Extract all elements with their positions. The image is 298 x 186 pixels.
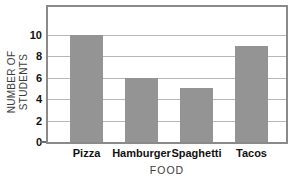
bar-pizza: [70, 35, 103, 142]
bar-hamburger: [125, 78, 158, 142]
y-tick-label: 8: [12, 49, 42, 63]
y-axis-tick-labels: 0246810: [12, 5, 42, 144]
x-axis-tick-labels: PizzaHamburgerSpaghettiTacos: [48, 147, 286, 161]
plot-area: [46, 5, 288, 144]
x-tick-label: Tacos: [207, 147, 297, 160]
y-tick-label: 4: [12, 92, 42, 106]
bar-tacos: [235, 46, 268, 142]
bar-spaghetti: [180, 88, 213, 142]
chart-title-cropped: Favorite Foods: [94, 0, 265, 3]
y-tick-label: 10: [12, 28, 42, 42]
y-tick-label: 6: [12, 71, 42, 85]
chart-canvas: Favorite Foods NUMBER OF STUDENTS 024681…: [0, 0, 298, 186]
y-tick-label: 2: [12, 114, 42, 128]
x-axis-label: FOOD: [46, 164, 288, 176]
y-tick-label: 0: [12, 135, 42, 149]
